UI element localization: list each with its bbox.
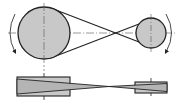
crossed-belt-drive-diagram [0,0,179,110]
side-view [17,65,167,100]
front-view [8,3,176,63]
